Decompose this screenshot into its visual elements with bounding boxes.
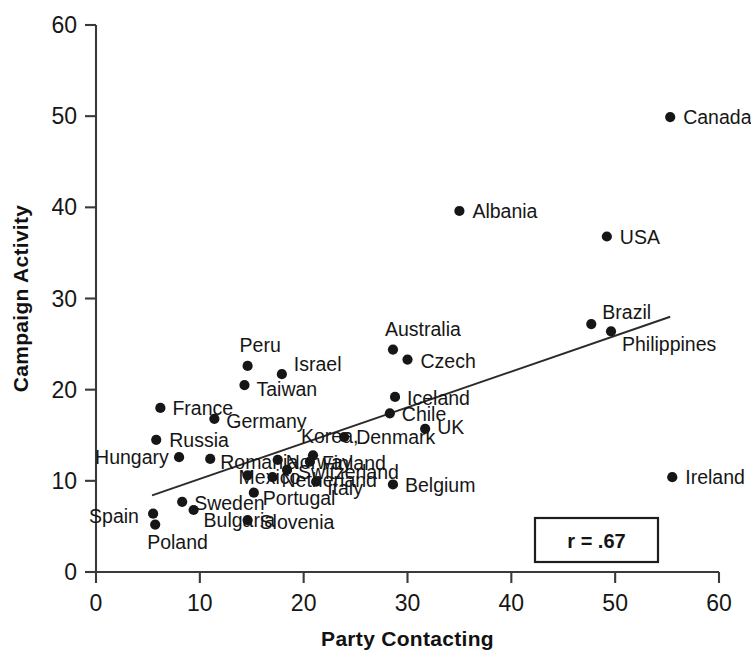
point-marker-spain bbox=[148, 509, 158, 519]
point-marker-albania bbox=[454, 206, 464, 216]
x-tick-label-50: 50 bbox=[602, 590, 628, 616]
point-label-denmark: Denmark bbox=[356, 426, 435, 448]
point-marker-iceland bbox=[390, 392, 400, 402]
y-axis-title: Campaign Activity bbox=[9, 205, 32, 393]
point-label-israel: Israel bbox=[294, 353, 342, 375]
point-marker-canada bbox=[665, 112, 675, 122]
point-label-france: France bbox=[172, 397, 233, 419]
point-label-spain: Spain bbox=[89, 505, 139, 527]
data-point: Taiwan bbox=[239, 378, 317, 400]
point-marker-ireland bbox=[667, 472, 677, 482]
point-marker-norway bbox=[273, 455, 283, 465]
point-marker-slovenia bbox=[242, 515, 252, 525]
point-marker-germany bbox=[209, 414, 219, 424]
point-label-poland: Poland bbox=[147, 531, 208, 553]
point-marker-chile bbox=[385, 408, 395, 418]
correlation-text: r = .67 bbox=[567, 530, 625, 552]
x-tick-label-40: 40 bbox=[499, 590, 525, 616]
data-points-group: CanadaAlbaniaUSABrazilPhilippinesAustral… bbox=[89, 106, 751, 553]
point-marker-poland bbox=[150, 519, 160, 529]
data-point: Brazil bbox=[586, 301, 651, 329]
point-marker-peru bbox=[242, 361, 252, 371]
y-tick-label-30: 30 bbox=[51, 286, 77, 312]
x-axis-title: Party Contacting bbox=[321, 627, 494, 650]
point-label-philippines: Philippines bbox=[622, 333, 717, 355]
data-point: Canada bbox=[665, 106, 751, 128]
point-label-peru: Peru bbox=[240, 334, 281, 356]
point-marker-russia bbox=[151, 435, 161, 445]
point-marker-france bbox=[155, 403, 165, 413]
point-marker-brazil bbox=[586, 319, 596, 329]
y-tick-label-40: 40 bbox=[51, 194, 77, 220]
x-tick-label-20: 20 bbox=[291, 590, 317, 616]
data-point: Belgium bbox=[388, 474, 476, 496]
point-label-usa: USA bbox=[620, 226, 660, 248]
point-label-taiwan: Taiwan bbox=[256, 378, 317, 400]
data-point: Philippines bbox=[606, 326, 717, 355]
data-point: Peru bbox=[240, 334, 281, 371]
point-marker-czech bbox=[402, 354, 412, 364]
point-marker-sweden bbox=[177, 497, 187, 507]
data-point: Albania bbox=[454, 200, 537, 222]
x-tick-label-60: 60 bbox=[706, 590, 732, 616]
scatter-plot-figure: 01020304050600102030405060 CanadaAlbania… bbox=[0, 0, 751, 660]
point-marker-philippines bbox=[606, 326, 616, 336]
point-marker-usa bbox=[602, 231, 612, 241]
y-tick-label-60: 60 bbox=[51, 12, 77, 38]
point-marker-taiwan bbox=[239, 380, 249, 390]
point-marker-italy bbox=[311, 477, 321, 487]
point-label-hungary: Hungary bbox=[95, 446, 169, 468]
data-point: Spain bbox=[89, 505, 158, 527]
y-tick-label-20: 20 bbox=[51, 377, 77, 403]
y-tick-label-10: 10 bbox=[51, 468, 77, 494]
data-point: Czech bbox=[402, 350, 475, 372]
point-label-czech: Czech bbox=[421, 350, 476, 372]
point-label-canada: Canada bbox=[683, 106, 751, 128]
data-point: Poland bbox=[147, 519, 208, 552]
data-point: France bbox=[155, 397, 233, 419]
point-label-portugal: Portugal bbox=[263, 487, 336, 509]
correlation-annotation-group: r = .67 bbox=[535, 518, 658, 562]
point-label-belgium: Belgium bbox=[405, 474, 475, 496]
x-tick-label-10: 10 bbox=[187, 590, 213, 616]
data-point: Ireland bbox=[667, 466, 745, 488]
point-label-ireland: Ireland bbox=[685, 466, 745, 488]
data-point: Israel bbox=[277, 353, 342, 379]
point-label-albania: Albania bbox=[472, 200, 537, 222]
point-label-russia: Russia bbox=[169, 429, 229, 451]
point-marker-netherland bbox=[267, 472, 277, 482]
point-marker-romania bbox=[205, 454, 215, 464]
point-label-australia: Australia bbox=[385, 318, 461, 340]
point-label-korea: Korea, bbox=[301, 425, 358, 447]
point-marker-hungary bbox=[174, 452, 184, 462]
point-label-uk: UK bbox=[437, 416, 464, 438]
point-label-brazil: Brazil bbox=[602, 301, 651, 323]
chart-canvas: 01020304050600102030405060 CanadaAlbania… bbox=[0, 0, 751, 660]
point-marker-belgium bbox=[388, 479, 398, 489]
x-tick-label-30: 30 bbox=[395, 590, 421, 616]
point-label-germany: Germany bbox=[226, 410, 306, 432]
point-marker-australia bbox=[388, 344, 398, 354]
point-label-slovenia: Slovenia bbox=[260, 511, 335, 533]
data-point: USA bbox=[602, 226, 660, 248]
y-tick-label-50: 50 bbox=[51, 103, 77, 129]
x-tick-label-0: 0 bbox=[90, 590, 103, 616]
y-tick-label-0: 0 bbox=[64, 559, 77, 585]
point-marker-bulgaria bbox=[189, 505, 199, 515]
